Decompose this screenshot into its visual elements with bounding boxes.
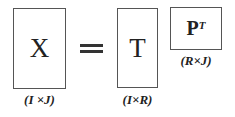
matrix-pt-box: PT	[170, 7, 222, 50]
matrix-t-symbol: T	[129, 33, 146, 64]
matrix-x-symbol: X	[30, 33, 50, 64]
matrix-x-dims: (I ×J)	[13, 92, 66, 108]
transpose-superscript: T	[199, 19, 206, 31]
matrix-t-dims: (I×R)	[112, 92, 163, 108]
equals-sign	[80, 44, 103, 53]
matrix-t-box: T	[117, 8, 158, 88]
matrix-pt-dims: (R×J)	[170, 53, 222, 69]
matrix-p-symbol: P	[187, 17, 199, 40]
matrix-x-box: X	[13, 8, 66, 89]
